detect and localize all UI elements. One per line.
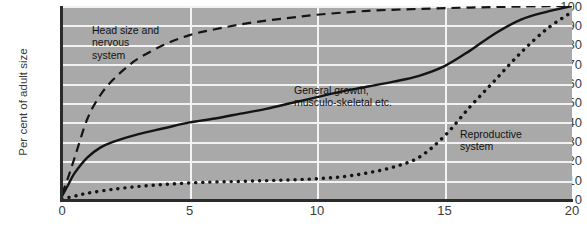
- y-axis-title: Per cent of adult size: [17, 27, 29, 177]
- annotation-general-growth: General growth, musculo-skeletal etc.: [294, 84, 392, 109]
- y-axis-line: [60, 6, 63, 202]
- x-tick-label: 20: [552, 204, 587, 217]
- x-tick-label: 0: [42, 204, 82, 217]
- x-tick-label: 10: [297, 204, 337, 217]
- x-tick-label: 15: [425, 204, 465, 217]
- annotation-neural: Head size and nervous system: [92, 24, 159, 61]
- x-axis-line: [62, 199, 573, 202]
- x-tick-label: 5: [170, 204, 210, 217]
- annotation-reproductive: Reproductive system: [460, 128, 522, 153]
